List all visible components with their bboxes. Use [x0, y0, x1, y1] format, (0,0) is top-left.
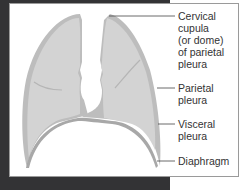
left-lung — [101, 18, 155, 150]
label-cervical-cupula: Cervical cupula (or dome) of parietal pl… — [178, 10, 224, 70]
label-visceral-pleura: Visceral pleura — [178, 118, 215, 142]
label-diaphragm: Diaphragm — [178, 155, 229, 167]
right-lung — [27, 18, 80, 158]
label-parietal-pleura: Parietal pleura — [178, 82, 214, 106]
